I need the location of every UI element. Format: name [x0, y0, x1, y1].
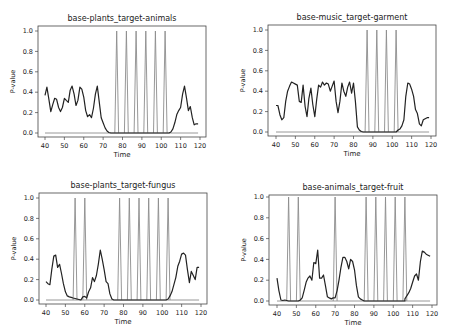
- y-tick-label: 1.0: [253, 26, 263, 34]
- x-tick-label: 50: [61, 309, 69, 317]
- y-tick-label: 0.0: [254, 297, 264, 305]
- x-tick-label: 90: [138, 142, 146, 150]
- x-tick-label: 50: [60, 142, 68, 150]
- spike-line: [365, 30, 369, 132]
- chart-panel-2: base-music_target-garment405060708090100…: [239, 13, 437, 158]
- x-tick-label: 50: [291, 141, 299, 149]
- spike-line: [394, 30, 398, 132]
- y-tick-label: 0.0: [23, 129, 33, 137]
- y-axis-label: P-value: [239, 69, 247, 93]
- x-tick-label: 100: [156, 309, 168, 317]
- x-tick-label: 40: [42, 309, 50, 317]
- y-tick-label: 0.0: [253, 128, 263, 136]
- x-tick-label: 60: [81, 309, 89, 317]
- y-tick-label: 0.2: [24, 276, 34, 284]
- spike-line: [364, 197, 368, 301]
- x-tick-label: 90: [370, 310, 378, 318]
- spike-line: [137, 198, 141, 300]
- spike-line: [124, 31, 128, 133]
- chart-title: base-plants_target-animals: [67, 14, 176, 23]
- x-tick-label: 50: [292, 310, 300, 318]
- x-tick-label: 100: [386, 141, 398, 149]
- x-tick-label: 110: [175, 309, 187, 317]
- y-tick-label: 0.6: [253, 67, 263, 75]
- x-tick-label: 120: [425, 141, 437, 149]
- spike-line: [403, 197, 407, 301]
- spike-line: [287, 197, 291, 301]
- spike-line: [154, 31, 158, 133]
- y-tick-label: 0.4: [23, 88, 33, 96]
- pvalue-line: [46, 250, 199, 300]
- chart-panel-4: base-animals_target-fruit405060708090100…: [240, 183, 438, 327]
- spike-line: [163, 31, 167, 133]
- x-tick-label: 40: [272, 141, 280, 149]
- y-axis-label: P-value: [9, 70, 17, 94]
- y-tick-label: 1.0: [254, 193, 264, 201]
- x-tick-label: 80: [349, 141, 357, 149]
- x-tick-label: 120: [195, 309, 207, 317]
- y-tick-label: 0.8: [23, 48, 33, 56]
- y-tick-label: 0.2: [253, 108, 263, 116]
- x-tick-label: 40: [41, 142, 49, 150]
- x-tick-label: 80: [119, 309, 127, 317]
- plot-frame: [268, 25, 436, 136]
- y-tick-label: 0.2: [254, 276, 264, 284]
- x-tick-label: 90: [139, 309, 147, 317]
- x-axis-label: Time: [342, 150, 360, 158]
- x-tick-label: 70: [331, 310, 339, 318]
- x-tick-label: 110: [174, 142, 186, 150]
- x-tick-label: 70: [330, 141, 338, 149]
- spike-line: [385, 30, 389, 132]
- x-tick-label: 90: [369, 141, 377, 149]
- y-axis-label: P-value: [240, 238, 248, 262]
- spike-line: [115, 31, 119, 133]
- spike-line: [134, 31, 138, 133]
- spike-line: [118, 198, 122, 300]
- y-tick-label: 0.6: [24, 235, 34, 243]
- y-tick-label: 0.6: [23, 68, 33, 76]
- spike-line: [166, 198, 170, 300]
- chart-title: base-animals_target-fruit: [303, 183, 404, 192]
- y-axis-label: P-value: [10, 237, 18, 261]
- y-tick-label: 0.0: [24, 296, 34, 304]
- y-tick-label: 0.4: [254, 256, 264, 264]
- x-tick-label: 100: [387, 310, 399, 318]
- pvalue-line: [45, 86, 198, 133]
- pvalue-line: [276, 81, 429, 132]
- spike-line: [73, 198, 77, 300]
- x-tick-label: 120: [194, 142, 206, 150]
- y-tick-label: 0.8: [254, 214, 264, 222]
- y-tick-label: 1.0: [23, 27, 33, 35]
- spike-line: [156, 198, 160, 300]
- plot-frame: [269, 195, 437, 305]
- y-tick-label: 0.4: [253, 87, 263, 95]
- figure: base-plants_target-animals40506070809010…: [0, 0, 457, 333]
- x-axis-label: Time: [113, 318, 131, 326]
- y-tick-label: 1.0: [24, 194, 34, 202]
- y-tick-label: 0.6: [254, 235, 264, 243]
- y-tick-label: 0.8: [24, 215, 34, 223]
- y-tick-label: 0.2: [23, 109, 33, 117]
- spike-line: [83, 198, 87, 300]
- spike-line: [144, 31, 148, 133]
- x-tick-label: 70: [99, 142, 107, 150]
- spike-line: [384, 197, 388, 301]
- x-tick-label: 80: [350, 310, 358, 318]
- x-tick-label: 80: [118, 142, 126, 150]
- x-tick-label: 40: [273, 310, 281, 318]
- spike-line: [296, 197, 300, 301]
- x-tick-label: 70: [100, 309, 108, 317]
- plot-frame: [38, 26, 206, 137]
- x-tick-label: 60: [312, 310, 320, 318]
- x-tick-label: 60: [311, 141, 319, 149]
- x-tick-label: 120: [426, 310, 438, 318]
- x-tick-label: 60: [80, 142, 88, 150]
- y-tick-label: 0.4: [24, 255, 34, 263]
- spike-line: [333, 197, 337, 301]
- x-axis-label: Time: [343, 319, 361, 327]
- chart-panel-1: base-plants_target-animals40506070809010…: [9, 14, 206, 159]
- x-tick-label: 100: [155, 142, 167, 150]
- spike-line: [375, 30, 379, 132]
- y-tick-label: 0.8: [253, 47, 263, 55]
- chart-title: base-plants_target-fungus: [70, 181, 175, 190]
